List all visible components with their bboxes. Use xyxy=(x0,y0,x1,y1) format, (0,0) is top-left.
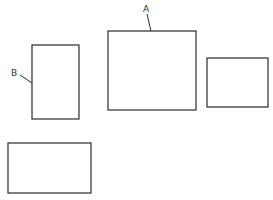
rectangle-a xyxy=(108,31,196,110)
rectangle-b xyxy=(32,45,79,119)
rectangle-right xyxy=(207,58,268,107)
label-a: A xyxy=(143,4,150,14)
leader-line-b xyxy=(20,75,32,83)
rectangle-bottom xyxy=(8,143,91,193)
diagram-canvas: A B xyxy=(0,0,273,200)
leader-line-a xyxy=(147,14,151,31)
label-b: B xyxy=(11,68,17,78)
